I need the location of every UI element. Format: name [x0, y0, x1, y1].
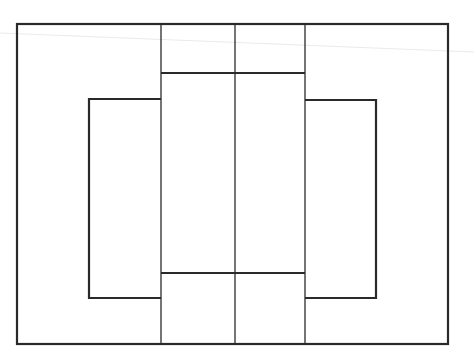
- side-brackets: [89, 99, 376, 298]
- floor-plan-diagram: [0, 0, 474, 361]
- left-bracket: [89, 99, 161, 298]
- horizontal-bars: [161, 73, 305, 273]
- diagram-canvas: [0, 0, 474, 361]
- right-bracket: [305, 100, 376, 298]
- scan-artifact-line: [0, 33, 474, 52]
